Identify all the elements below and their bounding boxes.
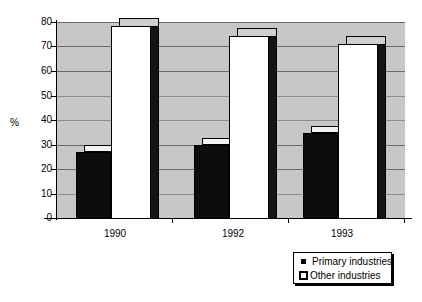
- bar-front-face: [303, 133, 338, 219]
- y-tick-label-60: 60: [30, 66, 52, 76]
- x-tick-mark-3: [404, 219, 405, 223]
- x-tick-label-1992: 1992: [203, 228, 263, 239]
- bar-side-face: [268, 36, 277, 219]
- bar-other-1992: [229, 28, 277, 219]
- gridline-80: [57, 22, 405, 23]
- y-tick-label-0: 0: [30, 213, 52, 223]
- legend-label-other: Other industries: [310, 270, 381, 281]
- y-tick-label-30: 30: [30, 140, 52, 150]
- x-tick-mark-1: [172, 219, 173, 223]
- y-tick-label-70: 70: [30, 41, 52, 51]
- bar-other-1993: [338, 36, 386, 219]
- y-tick-label-20: 20: [30, 164, 52, 174]
- bar-front-face: [229, 36, 269, 219]
- bar-chart: % 80 70 60 50 40 30 20 10 0: [0, 0, 422, 302]
- bar-front-face: [194, 145, 229, 219]
- y-tick-label-80: 80: [30, 17, 52, 27]
- bar-side-face: [150, 26, 159, 219]
- bar-other-1990: [111, 18, 159, 219]
- hollow-square-marker-icon: [299, 271, 308, 280]
- y-tick-label-10: 10: [30, 189, 52, 199]
- bar-front-face: [111, 26, 151, 219]
- y-tick-label-50: 50: [30, 91, 52, 101]
- legend-entry-primary: Primary industries: [298, 255, 392, 268]
- filled-square-marker-icon: [301, 259, 306, 264]
- bar-front-face: [338, 44, 378, 219]
- x-tick-label-1993: 1993: [312, 228, 372, 239]
- legend-entry-other: Other industries: [298, 269, 381, 282]
- y-axis-title: %: [10, 117, 19, 128]
- y-axis-labels: 80 70 60 50 40 30 20 10 0: [22, 0, 52, 302]
- legend-label-primary: Primary industries: [312, 256, 392, 267]
- bar-front-face: [76, 152, 111, 219]
- x-tick-mark-2: [288, 219, 289, 223]
- chart-legend: Primary industries Other industries: [293, 252, 392, 284]
- y-tick-label-40: 40: [30, 115, 52, 125]
- x-tick-label-1990: 1990: [85, 228, 145, 239]
- bar-side-face: [377, 44, 386, 219]
